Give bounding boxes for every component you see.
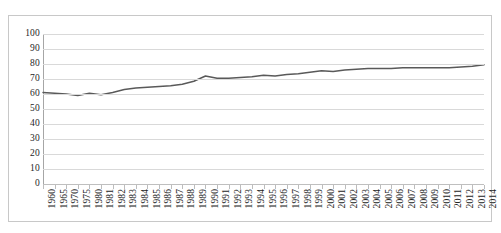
x-tick-label: 1965 <box>59 189 69 208</box>
gridline-70 <box>43 79 484 80</box>
y-tick-label: 60 <box>10 89 40 99</box>
x-tick-label: 1975 <box>82 189 92 208</box>
y-tick-label: 20 <box>10 149 40 159</box>
x-tick-label: 1983 <box>128 189 138 208</box>
gridline-80 <box>43 64 484 65</box>
x-tick-label: 1984 <box>140 189 150 208</box>
x-tick-label: 1992 <box>233 189 243 208</box>
x-tick-label: 2011 <box>453 189 463 208</box>
x-tick-label: 1986 <box>163 189 173 208</box>
x-tick-label: 2009 <box>430 189 440 208</box>
x-tick-label: 1982 <box>117 189 127 208</box>
x-tick-label: 2005 <box>384 189 394 208</box>
x-tick-label: 2004 <box>372 189 382 208</box>
x-tick-label: 1970 <box>70 189 80 208</box>
gridline-90 <box>43 49 484 50</box>
x-tick-label: 1991 <box>221 189 231 208</box>
gridline-30 <box>43 139 484 140</box>
y-tick-label: 50 <box>10 104 40 114</box>
x-tick-label: 2012 <box>465 189 475 208</box>
x-tick-label: 2001 <box>337 189 347 208</box>
y-tick-label: 40 <box>10 119 40 129</box>
gridline-10 <box>43 169 484 170</box>
x-tick-label: 1980 <box>94 189 104 208</box>
y-tick-label: 70 <box>10 74 40 84</box>
x-tick-label: 2010 <box>442 189 452 208</box>
x-tick-label: 2002 <box>349 189 359 208</box>
y-tick-label: 30 <box>10 134 40 144</box>
y-tick-label: 80 <box>10 59 40 69</box>
chart-frame: 0102030405060708090100 19601965197019751… <box>8 15 492 222</box>
x-tick-label: 1998 <box>303 189 313 208</box>
x-tick-label: 2003 <box>361 189 371 208</box>
gridline-20 <box>43 154 484 155</box>
y-tick-label: 0 <box>10 179 40 189</box>
plot-area <box>43 34 484 184</box>
gridline-60 <box>43 94 484 95</box>
x-tick-label: 1989 <box>198 189 208 208</box>
y-tick-label: 90 <box>10 44 40 54</box>
x-tick-label: 1960 <box>47 189 57 208</box>
x-tick-label: 1997 <box>291 189 301 208</box>
x-tick-label: 1985 <box>152 189 162 208</box>
x-tick-label: 1990 <box>210 189 220 208</box>
y-tick-label: 10 <box>10 164 40 174</box>
y-tick-label: 100 <box>10 29 40 39</box>
x-tick-label: 1996 <box>279 189 289 208</box>
x-tick-label: 1988 <box>186 189 196 208</box>
gridline-100 <box>43 34 484 35</box>
y-axis-tick-labels: 0102030405060708090100 <box>9 34 40 185</box>
gridline-50 <box>43 109 484 110</box>
x-tick-label: 2006 <box>395 189 405 208</box>
x-tick-label: 2007 <box>407 189 417 208</box>
x-tick-label: 1987 <box>175 189 185 208</box>
x-tick-label: 1995 <box>268 189 278 208</box>
gridline-40 <box>43 124 484 125</box>
x-tick-label: 1981 <box>105 189 115 208</box>
x-tick-label: 1994 <box>256 189 266 208</box>
x-tick-label: 1993 <box>244 189 254 208</box>
x-axis-tick-labels: 1960196519701975198019811982198319841985… <box>43 189 484 222</box>
x-tick-label: 2008 <box>419 189 429 208</box>
x-tick-label: 2000 <box>326 189 336 208</box>
line-series-path <box>43 65 484 96</box>
x-tick-label: 1999 <box>314 189 324 208</box>
x-tick-label: 2013 <box>477 189 487 208</box>
x-tick-label: 2014 <box>488 189 498 208</box>
